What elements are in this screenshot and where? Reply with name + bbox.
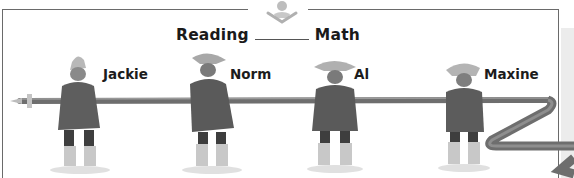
character-label-jackie: Jackie (103, 66, 148, 82)
character-label-maxine: Maxine (484, 66, 539, 82)
character-label-norm: Norm (230, 66, 271, 82)
character-label-al: Al (354, 66, 369, 82)
